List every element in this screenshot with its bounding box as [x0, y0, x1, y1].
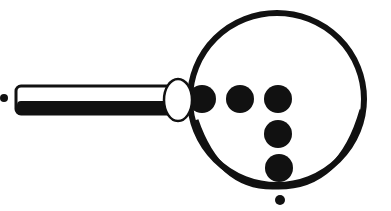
dot-4: [264, 120, 292, 148]
magnifier-diagram: [0, 0, 391, 211]
dot-2: [226, 85, 254, 113]
ferrule: [164, 79, 192, 121]
small-dot-bottom: [275, 195, 285, 205]
magnifying-glass-icon: [0, 0, 391, 211]
dot-5: [265, 154, 293, 182]
dot-3: [264, 85, 292, 113]
small-dot-left: [0, 94, 8, 102]
handle-shadow: [17, 101, 172, 114]
